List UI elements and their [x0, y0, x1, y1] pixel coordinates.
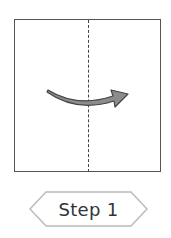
fold-arrow-icon: [45, 82, 130, 112]
step-label-text: Step 1: [29, 191, 148, 227]
step-label-badge: Step 1: [29, 191, 148, 227]
